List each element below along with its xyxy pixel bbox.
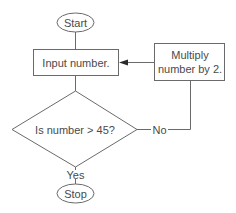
start-label: Start bbox=[64, 17, 87, 29]
stop-node: Stop bbox=[57, 184, 94, 203]
edge-label-yes: Yes bbox=[67, 169, 85, 181]
decision-label: Is number > 45? bbox=[35, 124, 115, 136]
input-node: Input number. bbox=[34, 50, 119, 76]
input-label: Input number. bbox=[42, 57, 109, 69]
edge-label-no: No bbox=[152, 124, 166, 136]
start-node: Start bbox=[57, 13, 94, 32]
flowchart-diagram: Start Input number. Multiply number by 2… bbox=[0, 0, 236, 213]
multiply-node: Multiply number by 2. bbox=[155, 44, 225, 81]
arrowhead-icon bbox=[119, 60, 128, 66]
stop-label: Stop bbox=[64, 188, 87, 200]
multiply-label-line2: number by 2. bbox=[158, 63, 222, 75]
decision-node: Is number > 45? bbox=[12, 91, 137, 167]
connector-decision-no-to-multiply bbox=[168, 81, 191, 130]
multiply-label-line1: Multiply bbox=[171, 49, 209, 61]
